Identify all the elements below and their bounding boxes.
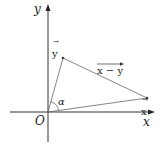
difference-label: x − y bbox=[97, 66, 123, 76]
x-axis-arrow-icon bbox=[148, 110, 155, 115]
diagram-lines bbox=[0, 0, 161, 150]
origin-label: O bbox=[35, 115, 45, 127]
vector-y-label: → y bbox=[52, 44, 58, 60]
vector-arrow-icon: → bbox=[142, 97, 148, 104]
y-axis-label: y bbox=[34, 3, 41, 15]
vector-diagram: y x O → y → x x − y α bbox=[0, 0, 161, 150]
angle-alpha-label: α bbox=[58, 97, 65, 107]
vector-arrow-icon: → bbox=[53, 39, 59, 46]
vector-x-label: → x bbox=[141, 102, 147, 118]
y-axis-arrow-icon bbox=[46, 4, 51, 11]
